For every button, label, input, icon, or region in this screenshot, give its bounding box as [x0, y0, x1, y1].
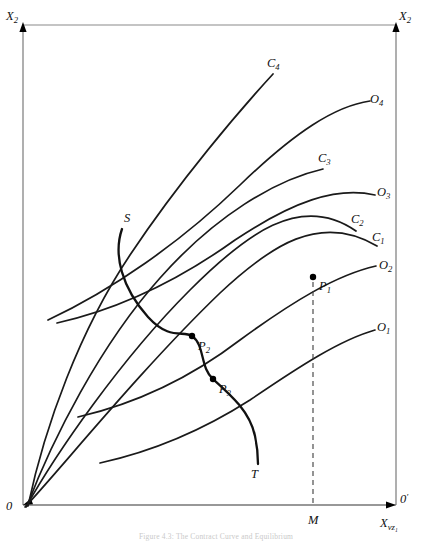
right-axis-arrowhead-icon: [392, 22, 399, 32]
indifference-curve-o3: [57, 193, 375, 323]
curve-label-c2: C2: [351, 212, 364, 228]
left-axis-arrowhead-icon: [19, 22, 26, 32]
curve-label-o4: O4: [370, 92, 384, 108]
point-label-p2: P2: [197, 339, 211, 355]
curve-label-o2: O2: [379, 258, 393, 274]
point-p1-dot: [310, 274, 316, 280]
point-label-p1: P1: [318, 279, 331, 295]
edgeworth-box-figure: X2 X2 0 0′ Xvz₁ M C1 C2 C3 C4 O1 O2 O3 O…: [0, 0, 432, 541]
curve-label-c4: C4: [267, 56, 280, 72]
point-label-p3: P3: [218, 382, 231, 398]
left-vertical-axis-label: X2: [5, 9, 19, 25]
indifference-curve-c2: [26, 216, 356, 507]
curve-label-o3: O3: [377, 185, 390, 201]
figure-caption: Figure 4.3: The Contract Curve and Equil…: [0, 532, 432, 541]
curve-label-o1: O1: [377, 320, 390, 336]
horizontal-axis-label: Xvz₁: [379, 516, 398, 532]
marker-m-label: M: [307, 513, 319, 527]
origin-right-label: 0′: [400, 492, 409, 506]
curve-label-c3: C3: [318, 151, 331, 167]
contract-curve-end-label: T: [251, 467, 259, 481]
contract-curve-start-label: S: [124, 211, 131, 225]
point-p2-dot: [189, 333, 195, 339]
indifference-curve-c1: [25, 232, 377, 507]
right-vertical-axis-label: X2: [398, 9, 412, 25]
edgeworth-box-chart: X2 X2 0 0′ Xvz₁ M C1 C2 C3 C4 O1 O2 O3 O…: [0, 0, 432, 541]
origin-left-label: 0: [6, 499, 13, 513]
curve-label-c1: C1: [372, 230, 385, 246]
point-p3-dot: [210, 376, 216, 382]
horizontal-axis-arrowhead-icon: [386, 501, 396, 508]
